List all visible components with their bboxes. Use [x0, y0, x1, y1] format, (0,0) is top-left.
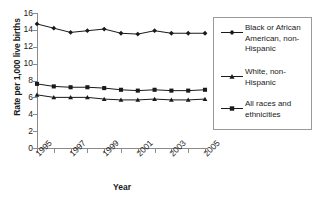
data-point [169, 31, 174, 36]
data-point [52, 84, 56, 88]
data-point [186, 31, 191, 36]
x-axis-title: Year [37, 182, 207, 192]
diamond-marker-icon [220, 24, 244, 35]
chart-container: Rate per 1,000 live births 0246810121416… [0, 0, 316, 201]
legend-label: Black or African American, non-Hispanic [245, 23, 311, 55]
data-point [119, 88, 123, 92]
data-point [119, 31, 124, 36]
chart-legend: Black or African American, non-HispanicW… [213, 17, 312, 130]
data-point [68, 30, 73, 35]
series-1 [35, 22, 208, 37]
data-point [85, 28, 90, 33]
data-point [85, 85, 89, 89]
data-point [203, 31, 208, 36]
data-point [135, 32, 140, 37]
data-point [69, 85, 73, 89]
data-point [169, 89, 173, 93]
data-point [186, 89, 190, 93]
data-point [102, 27, 107, 32]
data-point [152, 28, 157, 33]
data-point [153, 88, 157, 92]
triangle-marker-icon [220, 68, 244, 79]
data-point [102, 86, 106, 90]
series-2 [35, 92, 208, 101]
data-point [136, 89, 140, 93]
data-point [35, 22, 40, 27]
data-point [35, 82, 39, 86]
square-marker-icon [220, 100, 244, 111]
series-3 [35, 82, 207, 93]
data-point [203, 88, 207, 92]
legend-label: White, non-Hispanic [245, 67, 311, 88]
legend-label: All races and ethnicities [245, 99, 311, 120]
data-point [51, 26, 56, 31]
